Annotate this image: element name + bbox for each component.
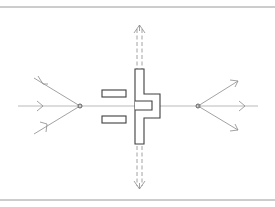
t-element-inner-slot [135, 101, 152, 110]
diagram-svg [0, 0, 275, 207]
upper-incoming-ray [34, 78, 80, 106]
upper-slit-plate [102, 90, 126, 97]
upper-incoming-arrow-icon [38, 76, 48, 84]
lower-slit-plate [102, 116, 126, 123]
lower-outgoing-ray [198, 106, 238, 130]
left-converging-rays [34, 76, 82, 134]
upper-outgoing-ray [198, 81, 238, 106]
left-focus-point [78, 104, 82, 108]
lower-incoming-ray [34, 106, 80, 134]
diagram-canvas [0, 0, 275, 207]
right-diverging-rays [196, 80, 245, 131]
